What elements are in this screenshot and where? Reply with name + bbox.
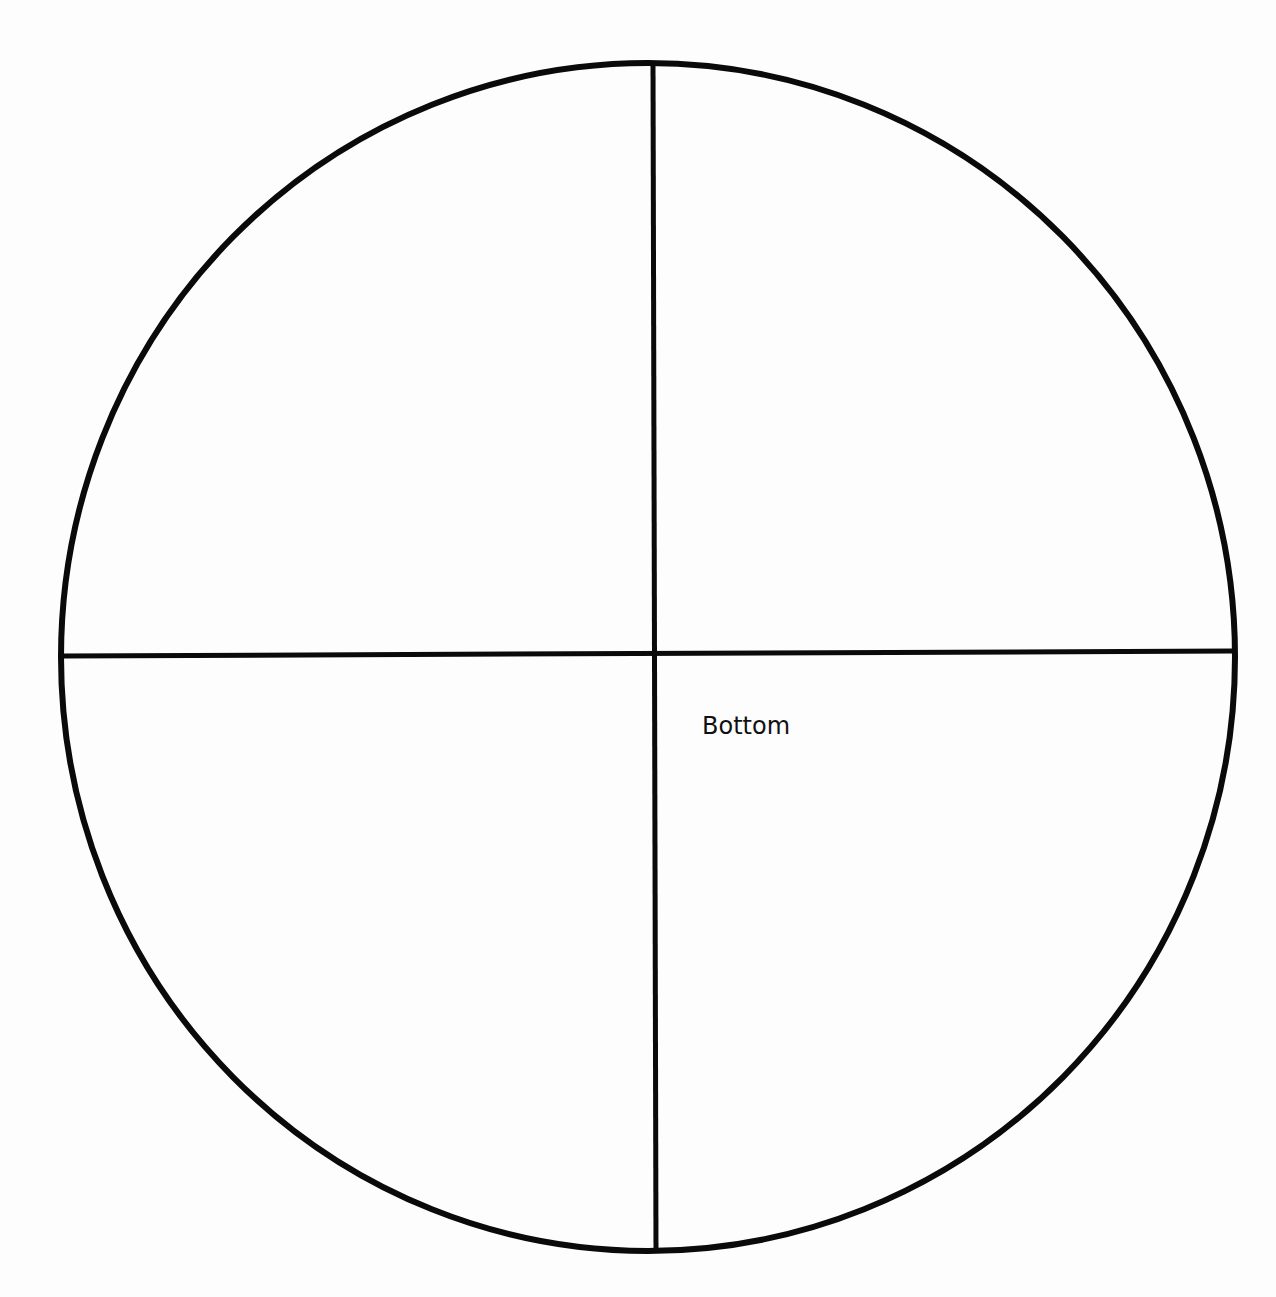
vertical-divider bbox=[653, 64, 656, 1252]
horizontal-divider bbox=[63, 651, 1233, 656]
quartered-circle-diagram bbox=[0, 0, 1276, 1297]
bottom-label: Bottom bbox=[702, 714, 790, 738]
